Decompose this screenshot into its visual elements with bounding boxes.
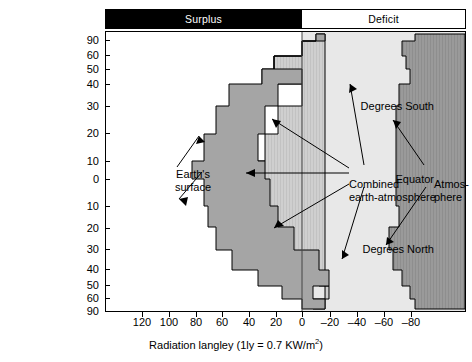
y-axis: 90 60 50 40 30 20 10 0 10 20 30 40 50 60… (0, 0, 99, 362)
y-tick-mark (105, 106, 110, 107)
x-tick-label: –80 (402, 316, 420, 328)
y-tick-mark (105, 133, 110, 134)
y-tick-mark (105, 269, 110, 270)
x-tick-label: 100 (160, 316, 178, 328)
annotation-combined-line2: earth-atmosphere (349, 191, 436, 204)
y-tick-label: 90 (87, 34, 99, 46)
y-tick-mark (105, 69, 110, 70)
x-tick-label: –40 (348, 316, 366, 328)
y-tick-label: 40 (87, 78, 99, 90)
y-tick-label: 10 (87, 200, 99, 212)
x-tick-mark (302, 312, 303, 317)
annotation-earth-surface: Earth's surface (175, 168, 211, 194)
x-tick-label: 60 (216, 316, 228, 328)
x-tick-mark (276, 312, 277, 317)
y-tick-label: 60 (87, 292, 99, 304)
y-tick-mark (105, 179, 110, 180)
x-axis-label-main: Radiation langley (1ly = 0.7 KW/m (149, 339, 315, 351)
y-tick-label: 50 (87, 63, 99, 75)
annotation-atmosphere-line2: phere (434, 191, 469, 204)
y-tick-mark (105, 228, 110, 229)
x-tick-mark (330, 312, 331, 317)
x-tick-mark (222, 312, 223, 317)
y-tick-label: 20 (87, 222, 99, 234)
deficit-band: Deficit (302, 9, 466, 29)
annotation-atmosphere-line1: Atmos- (434, 178, 469, 191)
y-tick-label: 20 (87, 127, 99, 139)
annotation-earth-surface-line2: surface (175, 181, 211, 194)
y-tick-label: 50 (87, 279, 99, 291)
annotation-atmosphere: Atmos- phere (434, 178, 469, 204)
x-tick-label: 0 (299, 316, 305, 328)
x-tick-label: –60 (375, 316, 393, 328)
x-tick-mark (357, 312, 358, 317)
y-tick-mark (105, 298, 110, 299)
plot-area (105, 31, 466, 312)
y-tick-label: 60 (87, 49, 99, 61)
axis-label-equator: Equator (395, 173, 434, 185)
y-tick-mark (105, 206, 110, 207)
chart-svg (106, 32, 465, 311)
y-tick-mark (105, 84, 110, 85)
x-tick-label: 20 (270, 316, 282, 328)
y-tick-mark (105, 161, 110, 162)
x-tick-label: –20 (321, 316, 339, 328)
y-tick-label: 10 (87, 155, 99, 167)
y-tick-label: 30 (87, 243, 99, 255)
y-tick-label-equator: 0 (93, 173, 99, 185)
axis-label-degrees-north: Degrees North (362, 243, 434, 255)
axis-label-degrees-south: Degrees South (361, 100, 434, 112)
x-tick-mark (169, 312, 170, 317)
x-tick-label: 40 (243, 316, 255, 328)
x-tick-mark (142, 312, 143, 317)
y-tick-mark (105, 285, 110, 286)
annotation-earth-surface-line1: Earth's (175, 168, 211, 181)
x-tick-label: 120 (133, 316, 151, 328)
x-tick-mark (196, 312, 197, 317)
y-tick-mark (105, 249, 110, 250)
y-tick-mark (105, 55, 110, 56)
y-tick-label: 40 (87, 263, 99, 275)
x-tick-mark (249, 312, 250, 317)
x-tick-label: 80 (190, 316, 202, 328)
x-tick-mark (411, 312, 412, 317)
surplus-band: Surplus (105, 9, 302, 29)
x-tick-mark (384, 312, 385, 317)
y-tick-mark (105, 311, 110, 312)
y-tick-label: 90 (87, 305, 99, 317)
radiation-balance-figure: Surplus Deficit (0, 0, 472, 362)
y-tick-label: 30 (87, 100, 99, 112)
x-axis-label-tail: ) (319, 339, 323, 351)
x-axis-label: Radiation langley (1ly = 0.7 KW/m2) (0, 337, 472, 351)
y-tick-mark (105, 40, 110, 41)
